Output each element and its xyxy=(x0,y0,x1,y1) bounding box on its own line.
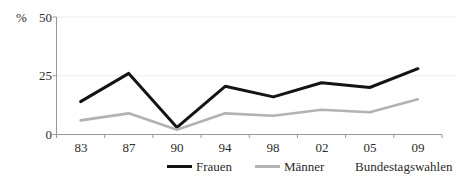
x-tick-label: 94 xyxy=(201,140,249,155)
x-tick-label: 83 xyxy=(57,140,105,155)
x-tick-label: 05 xyxy=(346,140,394,155)
x-tick-label: 90 xyxy=(153,140,201,155)
y-tick-label-50: 50 xyxy=(22,10,52,25)
y-tick-label-25: 25 xyxy=(22,68,52,83)
x-axis-title: Bundestagswahlen xyxy=(355,159,452,174)
y-tick-label-0: 0 xyxy=(22,127,52,142)
legend-label-maenner: Männer xyxy=(284,159,324,174)
legend-swatch-frauen xyxy=(167,165,192,168)
line-chart: % 50 25 0 83 87 90 94 98 02 05 09 Frauen… xyxy=(0,0,463,181)
x-tick-label: 02 xyxy=(298,140,346,155)
legend-swatch-maenner xyxy=(255,165,280,168)
legend-label-frauen: Frauen xyxy=(196,159,232,174)
x-tick-label: 98 xyxy=(249,140,297,155)
x-tick-label: 87 xyxy=(105,140,153,155)
x-tick-label: 09 xyxy=(394,140,442,155)
